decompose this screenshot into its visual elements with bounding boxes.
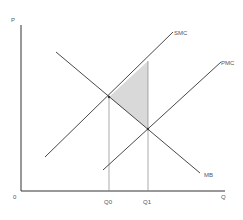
mb-label: MB bbox=[204, 172, 213, 178]
y-axis-label: P bbox=[11, 17, 15, 23]
smc-label: SMC bbox=[174, 30, 188, 36]
origin-label: 0 bbox=[13, 194, 17, 200]
pmc-label: PMC bbox=[221, 60, 235, 66]
market-equilibrium-point bbox=[147, 128, 149, 130]
social-optimum-point bbox=[108, 96, 110, 98]
mb-curve bbox=[56, 52, 200, 173]
x-axis-label: Q bbox=[221, 194, 226, 200]
deadweight-loss-area bbox=[109, 61, 148, 129]
pmc-curve bbox=[103, 62, 221, 170]
q0-label: Q0 bbox=[104, 199, 113, 205]
q1-label: Q1 bbox=[143, 199, 152, 205]
diagram-canvas: P Q 0 SMC PMC MB Q0 Q1 bbox=[0, 0, 243, 220]
